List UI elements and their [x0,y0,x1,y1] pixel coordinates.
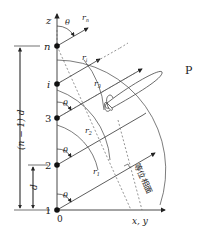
theta-label-2: θ [63,146,68,155]
ray-label-r1: r1 [93,167,100,177]
total-length-label: (n − 1) d [16,109,26,150]
ray-label-ri: ri [82,53,88,63]
element-label-n: n [44,41,50,52]
theta-label-1: θ [63,191,68,200]
ray-label-rn: rn [82,13,89,23]
x-axis-label: x, y [132,216,149,226]
far-point-label: P [185,64,193,77]
theta-label-3: θ [63,99,68,108]
radiation-pattern [105,71,163,111]
wavefront-label: 等位相面 [132,162,155,195]
element-label-3: 3 [45,113,51,124]
theta-label-n: θ [65,18,70,27]
angle-arcs [57,26,74,202]
ray-label-r3: r3 [94,79,101,89]
array-antenna-diagram: z x, y 0 1 2 3 i n θ θ θ θ r1 r2 r3 ri r… [0,0,206,238]
element-label-i: i [47,79,50,90]
ray-label-r2: r2 [85,126,92,136]
element-label-2: 2 [45,160,51,171]
spacing-label: d [29,184,39,190]
origin-label: 0 [57,214,63,224]
z-axis-label: z [45,15,52,26]
element-label-1: 1 [45,205,51,216]
rays [57,28,150,210]
